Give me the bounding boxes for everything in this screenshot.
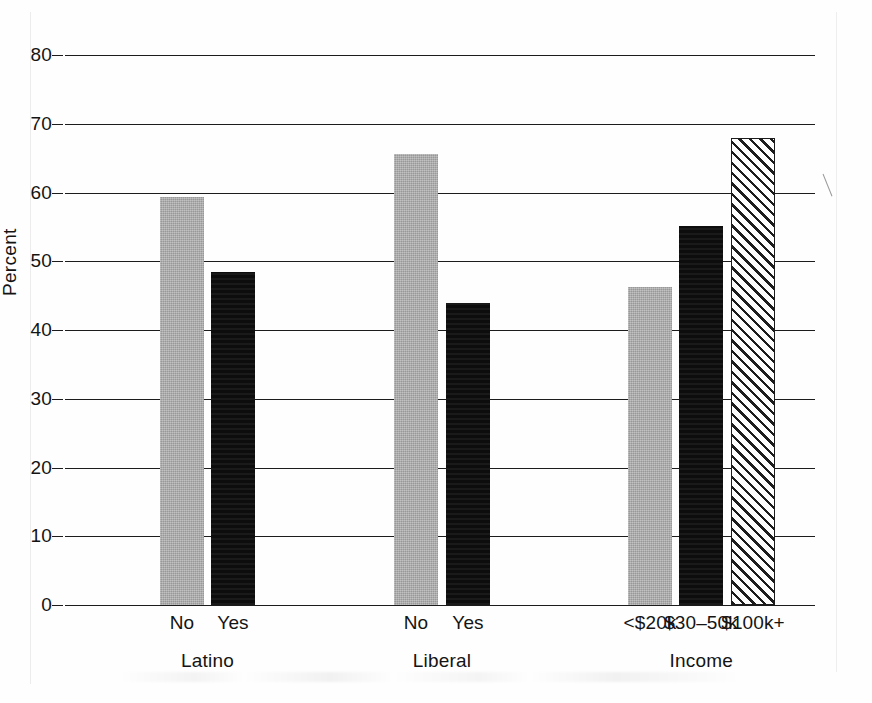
y-axis-tick-mark: [52, 193, 63, 194]
x-axis-category-label: No: [404, 612, 429, 634]
y-axis-tick-mark: [52, 399, 63, 400]
bar: [211, 272, 255, 605]
y-axis-tick-label: 30: [18, 388, 52, 410]
plot-area: [65, 55, 815, 605]
y-axis-tick-mark: [52, 261, 63, 262]
bar: [679, 226, 723, 605]
page-smudge-decoration: [120, 672, 740, 682]
y-axis-tick-mark: [52, 55, 63, 56]
gridline: [65, 605, 815, 606]
y-axis-tick-label: 80: [18, 44, 52, 66]
bar: [731, 138, 775, 605]
y-axis-tick-mark: [52, 468, 63, 469]
gridline: [65, 55, 815, 56]
y-axis-tick-mark: [52, 536, 63, 537]
x-axis-group-label: Latino: [181, 650, 234, 672]
x-axis-category-label: Yes: [217, 612, 248, 634]
gridline: [65, 124, 815, 125]
x-axis-category-label: No: [170, 612, 195, 634]
y-axis-tick-mark: [52, 124, 63, 125]
page-edge-right-decoration: [836, 12, 837, 672]
y-axis-tick-label: 10: [18, 525, 52, 547]
y-axis-tick-mark: [52, 330, 63, 331]
bar: [394, 154, 438, 605]
y-axis-tick-label: 50: [18, 250, 52, 272]
bar: [160, 197, 204, 605]
y-axis-tick-label: 40: [18, 319, 52, 341]
x-axis-category-label: $100k+: [721, 612, 784, 634]
x-axis-group-label: Liberal: [413, 650, 471, 672]
gridline: [65, 193, 815, 194]
y-axis-tick-label: 60: [18, 182, 52, 204]
bar: [446, 303, 490, 605]
chart-page: Percent 80706050403020100 NoYesLatinoNoY…: [0, 0, 872, 703]
scan-artifact-mark: [823, 174, 833, 197]
y-axis-tick-label: 20: [18, 457, 52, 479]
x-axis-group-label: Income: [670, 650, 734, 672]
y-axis-tick-label: 0: [18, 594, 52, 616]
y-axis-tick-labels: 80706050403020100: [0, 55, 52, 605]
y-axis-tick-label: 70: [18, 113, 52, 135]
y-axis-tick-mark: [52, 605, 63, 606]
x-axis-category-label: Yes: [452, 612, 483, 634]
bar: [628, 287, 672, 605]
